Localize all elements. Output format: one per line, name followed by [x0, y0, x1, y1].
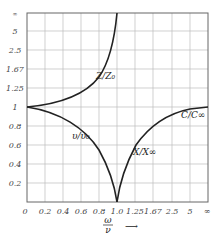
curve-x: [117, 107, 208, 202]
label-x: X/X∞: [132, 147, 156, 157]
svg-text:0.6: 0.6: [75, 207, 88, 216]
plot-frame: [27, 13, 208, 202]
grid: [27, 13, 208, 202]
svg-text:ω: ω: [104, 215, 112, 225]
curve-v: [27, 107, 117, 202]
svg-text:1.67: 1.67: [6, 65, 25, 74]
x-tick-labels: 0 0.2 0.4 0.6 0.8 1.0 1.25 1.67 2.5 5 ∞: [22, 207, 210, 216]
svg-text:5: 5: [187, 207, 192, 216]
label-v: υ/υ₀: [72, 131, 90, 141]
svg-text:∞: ∞: [13, 10, 18, 17]
svg-text:1.67: 1.67: [144, 207, 163, 216]
svg-text:2.5: 2.5: [8, 46, 22, 55]
svg-text:0.8: 0.8: [9, 122, 22, 131]
label-c: C/C∞: [181, 110, 205, 120]
svg-text:1.25: 1.25: [6, 84, 24, 93]
svg-text:1.25: 1.25: [126, 207, 144, 216]
svg-text:2.5: 2.5: [165, 207, 179, 216]
svg-text:⟶: ⟶: [125, 221, 138, 231]
svg-text:0.4: 0.4: [9, 160, 22, 169]
svg-text:0.2: 0.2: [9, 179, 22, 188]
curve-z: [27, 13, 117, 107]
svg-text:1.0: 1.0: [111, 207, 124, 216]
svg-text:0: 0: [22, 207, 27, 216]
svg-text:0.4: 0.4: [57, 207, 70, 216]
svg-text:1: 1: [12, 103, 17, 112]
svg-text:5: 5: [12, 27, 17, 36]
svg-text:0.2: 0.2: [39, 207, 52, 216]
x-axis-label: ω ν ⟶: [103, 215, 138, 235]
label-z: Z/Z₀: [95, 71, 116, 81]
svg-text:∞: ∞: [204, 207, 211, 216]
svg-text:ν: ν: [105, 225, 111, 235]
svg-text:0.6: 0.6: [9, 141, 22, 150]
chart: ∞ 5 2.5 1.67 1.25 1 0.8 0.6 0.4 0.2 0 0.…: [0, 0, 221, 239]
curves: [27, 13, 208, 202]
y-tick-labels: ∞ 5 2.5 1.67 1.25 1 0.8 0.6 0.4 0.2: [6, 10, 25, 188]
